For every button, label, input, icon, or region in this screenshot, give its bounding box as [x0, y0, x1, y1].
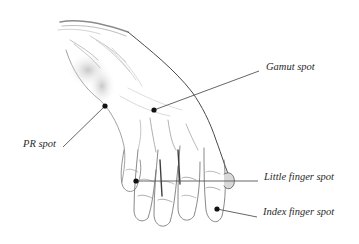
- index-finger-spot-label: Index finger spot: [263, 207, 334, 218]
- hand-drawing: [58, 21, 234, 226]
- gamut-spot-leader-line: [154, 71, 259, 110]
- little-finger-spot-label: Little finger spot: [264, 172, 334, 183]
- pr-spot-dot: [102, 103, 107, 108]
- spot-markers: [102, 103, 219, 211]
- index-finger-spot-dot: [214, 206, 219, 211]
- gamut-spot-label: Gamut spot: [266, 62, 315, 73]
- little-finger-spot-dot: [133, 178, 138, 183]
- pr-spot-label: PR spot: [23, 139, 56, 150]
- pr-spot-leader-line: [63, 106, 105, 147]
- gamut-spot-dot: [151, 107, 156, 112]
